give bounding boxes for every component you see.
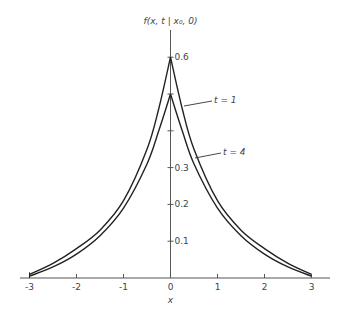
x-tick-label: 0	[168, 282, 174, 292]
label-t4: t = 4	[223, 147, 246, 157]
y-tick-label: 0.2	[175, 199, 189, 209]
y-tick-label: 0.6	[175, 52, 190, 62]
x-tick-label: -3	[25, 282, 34, 292]
y-tick-label: 0.1	[175, 236, 189, 246]
axes: -3-2-101230.10.20.30.6xf(x, t | x₀, 0)	[20, 16, 330, 305]
y-axis-label: f(x, t | x₀, 0)	[144, 16, 198, 26]
leader-line-t4	[195, 153, 221, 158]
x-axis-label: x	[167, 295, 174, 305]
x-tick-label: -1	[119, 282, 128, 292]
leader-line-t1	[184, 101, 212, 106]
x-tick-label: 1	[215, 282, 221, 292]
x-tick-label: 3	[309, 282, 315, 292]
chart: -3-2-101230.10.20.30.6xf(x, t | x₀, 0) t…	[0, 0, 343, 318]
x-tick-label: -2	[72, 282, 81, 292]
label-t1: t = 1	[214, 95, 237, 105]
x-tick-label: 2	[262, 282, 268, 292]
y-tick-label: 0.3	[175, 163, 189, 173]
